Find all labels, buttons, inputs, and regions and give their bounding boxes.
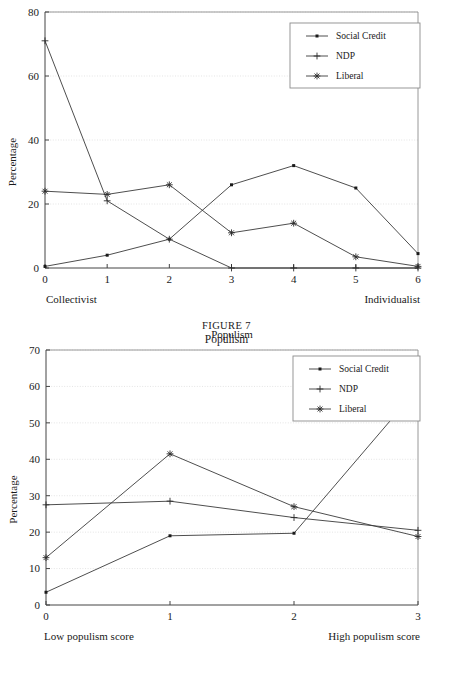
y-axis-label: Percentage <box>6 138 18 186</box>
dot-marker <box>354 187 357 190</box>
y-tick-label: 40 <box>28 134 40 146</box>
legend-label: Social Credit <box>339 364 389 374</box>
x-tick-label: 3 <box>229 273 235 285</box>
asterisk-marker <box>42 188 49 195</box>
asterisk-marker <box>43 554 50 561</box>
plus-marker <box>290 265 297 272</box>
plus-marker <box>104 197 111 204</box>
dot-marker <box>169 534 172 537</box>
dot-marker <box>230 183 233 186</box>
y-tick-label: 0 <box>34 262 40 274</box>
y-axis: 020406080 <box>28 6 49 274</box>
series-social-credit <box>44 164 420 268</box>
asterisk-marker <box>228 229 235 236</box>
y-tick-label: 20 <box>28 198 40 210</box>
legend-label: NDP <box>339 384 358 394</box>
asterisk-marker <box>167 450 174 457</box>
y-tick-label: 50 <box>29 417 41 429</box>
x-tick-label: 0 <box>43 610 49 622</box>
axis-end-label-left: Low populism score <box>44 630 134 642</box>
y-tick-label: 0 <box>35 599 41 611</box>
asterisk-marker <box>352 253 359 260</box>
dot-marker <box>293 532 296 535</box>
x-tick-label: 5 <box>353 273 359 285</box>
asterisk-marker <box>166 181 173 188</box>
series-liberal <box>43 450 422 561</box>
axis-end-label-left: Collectivist <box>46 293 97 305</box>
series-line <box>45 185 418 267</box>
plus-marker <box>42 37 49 44</box>
asterisk-marker <box>104 191 111 198</box>
series-line <box>46 501 418 530</box>
dot-marker <box>316 35 319 38</box>
x-tick-label: 1 <box>104 273 110 285</box>
y-tick-label: 60 <box>28 70 40 82</box>
y-tick-label: 30 <box>29 490 41 502</box>
plus-marker <box>352 265 359 272</box>
x-tick-label: 3 <box>415 610 421 622</box>
dot-marker <box>417 252 420 255</box>
x-tick-label: 2 <box>291 610 297 622</box>
x-tick-label: 0 <box>42 273 48 285</box>
y-tick-label: 60 <box>29 380 41 392</box>
series-line <box>46 454 418 558</box>
asterisk-marker <box>415 263 422 270</box>
plus-marker <box>291 514 298 521</box>
axis-end-label-right: High populism score <box>328 630 420 642</box>
plus-marker <box>228 265 235 272</box>
asterisk-marker <box>314 73 321 80</box>
dot-marker <box>44 265 47 268</box>
y-tick-label: 80 <box>28 6 40 18</box>
chart-populism: 0102030405060700123PercentageLow populis… <box>0 318 453 666</box>
axis-end-label-right: Individualist <box>364 293 420 305</box>
legend-label: NDP <box>336 51 355 61</box>
plus-marker <box>415 527 422 534</box>
x-tick-label: 4 <box>291 273 297 285</box>
x-tick-label: 6 <box>415 273 421 285</box>
asterisk-marker <box>291 503 298 510</box>
dot-marker <box>106 254 109 257</box>
chart-canvas-2: 0102030405060700123PercentageLow populis… <box>0 318 453 666</box>
x-axis: 0123 <box>43 601 421 622</box>
x-tick-label: 1 <box>167 610 173 622</box>
asterisk-marker <box>415 533 422 540</box>
dot-marker <box>45 591 48 594</box>
y-axis-label: Percentage <box>7 475 19 523</box>
asterisk-marker <box>290 220 297 227</box>
y-tick-label: 10 <box>29 562 41 574</box>
dot-marker <box>319 368 322 371</box>
legend: Social CreditNDPLiberal <box>293 356 420 421</box>
chart-title: Populism <box>211 328 253 340</box>
plus-marker <box>43 501 50 508</box>
series-line <box>45 166 418 267</box>
y-tick-label: 20 <box>29 526 41 538</box>
series-ndp <box>43 498 422 534</box>
legend-label: Liberal <box>336 71 364 81</box>
legend-label: Social Credit <box>336 31 386 41</box>
dot-marker <box>292 164 295 167</box>
figure-page: 0204060800123456PercentageCollectivistIn… <box>0 0 453 682</box>
legend-label: Liberal <box>339 404 367 414</box>
x-tick-label: 2 <box>167 273 173 285</box>
legend: Social CreditNDPLiberal <box>290 23 420 88</box>
chart-canvas-1: 0204060800123456PercentageCollectivistIn… <box>0 0 453 318</box>
y-tick-label: 70 <box>29 344 41 356</box>
y-tick-label: 40 <box>29 453 41 465</box>
plus-marker <box>167 498 174 505</box>
y-axis: 010203040506070 <box>29 344 50 611</box>
asterisk-marker <box>317 406 324 413</box>
chart-collectivist-individualist: 0204060800123456PercentageCollectivistIn… <box>0 0 453 318</box>
